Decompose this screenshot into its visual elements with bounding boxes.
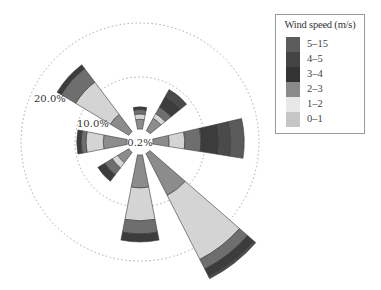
- legend-swatch: [286, 97, 300, 112]
- legend-item-1-2: 1–2: [286, 97, 356, 112]
- petal-sw: [98, 149, 132, 182]
- legend: Wind speed (m/s) 5–15 4–5 3–4 2–3 1–2 0–…: [275, 14, 365, 134]
- petals: [57, 65, 256, 279]
- petal-segment-1-2: [125, 187, 155, 221]
- ring-label-20: 20.0%: [34, 93, 66, 104]
- petal-segment-4-5: [217, 122, 231, 157]
- petal-segment-5-15: [228, 119, 244, 159]
- legend-label: 3–4: [307, 68, 323, 79]
- petal-segment-2-3: [122, 219, 157, 233]
- petal-segment-1-2: [168, 132, 184, 149]
- legend-item-2-3: 2–3: [286, 82, 356, 97]
- petal-segment-0-1: [136, 119, 145, 129]
- petal-segment-2-3: [134, 110, 146, 115]
- petal-segment-0-1: [103, 135, 127, 149]
- legend-swatch: [286, 37, 300, 52]
- wind-rose-chart: 20.0% 10.0% 0.2%: [0, 0, 280, 290]
- petal-segment-3-4: [77, 130, 82, 154]
- petal-segment-3-4: [133, 107, 146, 110]
- legend-swatch: [286, 82, 300, 97]
- petal-segment-3-4: [121, 232, 159, 242]
- petal-w: [77, 130, 127, 154]
- legend-label: 0–1: [307, 113, 323, 124]
- legend-item-3-4: 3–4: [286, 67, 356, 82]
- petal-segment-3-4: [199, 124, 218, 154]
- legend-label: 4–5: [307, 53, 323, 64]
- petal-ne: [146, 90, 186, 134]
- center-label: 0.2%: [127, 137, 152, 148]
- petal-e: [153, 119, 245, 159]
- legend-swatch: [286, 52, 300, 67]
- legend-swatch: [286, 112, 300, 127]
- legend-label: 2–3: [307, 83, 323, 94]
- legend-swatch: [286, 67, 300, 82]
- petal-segment-2-3: [81, 131, 87, 153]
- legend-label: 5–15: [307, 38, 328, 49]
- petal-segment-2-3: [184, 128, 201, 151]
- petal-n: [133, 107, 146, 129]
- legend-label: 1–2: [307, 98, 323, 109]
- ring-label-10: 10.0%: [77, 118, 109, 129]
- legend-item-0-1: 0–1: [286, 112, 356, 127]
- legend-item-5-15: 5–15: [286, 37, 356, 52]
- legend-item-4-5: 4–5: [286, 52, 356, 67]
- petal-segment-0-1: [131, 155, 149, 188]
- petal-se: [146, 151, 256, 279]
- legend-title: Wind speed (m/s): [276, 19, 364, 30]
- petal-segment-0-1: [153, 135, 170, 146]
- petal-segment-1-2: [135, 114, 146, 120]
- petal-segment-1-2: [86, 132, 104, 153]
